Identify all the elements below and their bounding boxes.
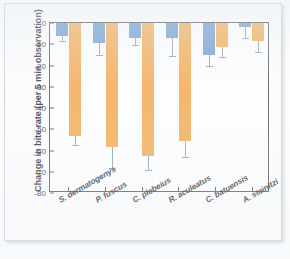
error-cap-series-blue-0: [59, 41, 66, 42]
plot-area: 0-10-20-30-40-50-60-70-80: [49, 22, 269, 192]
y-tick-mark: [50, 65, 54, 66]
bar-series-blue-4: [203, 23, 215, 55]
error-cap-series-blue-4: [206, 66, 213, 67]
y-tick-mark: [50, 44, 54, 45]
error-cap-series-blue-2: [132, 45, 139, 46]
error-bar-series-orange-0: [75, 136, 76, 146]
bar-series-blue-2: [129, 23, 141, 38]
error-cap-series-orange-2: [145, 170, 152, 171]
y-tick-label: -20: [34, 61, 46, 70]
error-bar-series-blue-3: [172, 38, 173, 56]
bar-series-orange-5: [252, 23, 264, 41]
error-cap-series-orange-0: [72, 145, 79, 146]
error-bar-series-blue-1: [99, 43, 100, 55]
bar-series-orange-4: [216, 23, 228, 47]
bar-series-orange-1: [106, 23, 118, 147]
y-tick-label: 0: [42, 19, 46, 28]
error-bar-series-orange-5: [258, 41, 259, 52]
y-tick-mark: [50, 193, 54, 194]
y-tick-label: -30: [34, 82, 46, 91]
y-tick-mark: [50, 86, 54, 87]
error-cap-series-orange-5: [255, 52, 262, 53]
y-tick-mark: [50, 108, 54, 109]
figure-card: Change in bite rate (per 5 min observati…: [4, 3, 282, 241]
y-tick-label: -70: [34, 167, 46, 176]
y-tick-label: -80: [34, 189, 46, 198]
error-cap-series-orange-3: [182, 157, 189, 158]
y-tick-mark: [50, 129, 54, 130]
bar-series-orange-3: [179, 23, 191, 141]
bar-series-blue-3: [166, 23, 178, 38]
y-tick-label: -10: [34, 40, 46, 49]
y-tick-label: -50: [34, 125, 46, 134]
error-bar-series-blue-5: [245, 27, 246, 38]
y-tick-label: -40: [34, 104, 46, 113]
bar-series-orange-2: [142, 23, 154, 156]
error-bar-series-blue-2: [135, 38, 136, 45]
error-cap-series-blue-3: [169, 56, 176, 57]
bar-series-blue-1: [93, 23, 105, 43]
error-bar-series-orange-4: [222, 47, 223, 57]
y-tick-mark: [50, 171, 54, 172]
y-tick-label: -60: [34, 146, 46, 155]
error-bar-series-orange-3: [185, 141, 186, 157]
error-cap-series-blue-5: [242, 38, 249, 39]
y-tick-mark: [50, 150, 54, 151]
bar-series-orange-0: [69, 23, 81, 136]
error-bar-series-blue-4: [209, 55, 210, 66]
y-tick-mark: [50, 23, 54, 24]
bar-series-blue-0: [56, 23, 68, 36]
error-cap-series-orange-4: [219, 57, 226, 58]
error-cap-series-blue-1: [96, 55, 103, 56]
error-bar-series-orange-2: [148, 156, 149, 170]
